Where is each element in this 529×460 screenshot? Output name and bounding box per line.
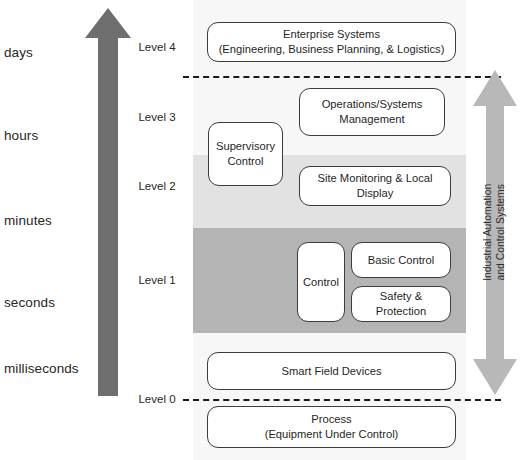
level-label-0: Level 0 [131, 393, 183, 405]
control-box[interactable]: Control [297, 242, 345, 322]
control-label: Control [303, 275, 339, 290]
level-labels: Level 4 Level 3 Level 2 Level 1 Level 0 [131, 0, 183, 460]
level-0-separator [183, 399, 501, 401]
smart-field-devices-label: Smart Field Devices [281, 364, 381, 379]
process-box[interactable]: Process (Equipment Under Control) [207, 406, 456, 448]
site-monitoring-local-display-box[interactable]: Site Monitoring & Local Display [299, 166, 451, 206]
diagram-canvas: days hours minutes seconds milliseconds … [0, 0, 529, 460]
safety-protection-box[interactable]: Safety & Protection [351, 286, 451, 322]
basic-control-box[interactable]: Basic Control [351, 242, 451, 278]
double-headed-vertical-arrow-icon [473, 70, 517, 395]
level-label-1: Level 1 [131, 274, 183, 286]
basic-control-label: Basic Control [368, 253, 435, 268]
supervisory-control-box[interactable]: Supervisory Control [208, 122, 283, 186]
time-label-milliseconds: milliseconds [4, 361, 86, 376]
process-label: Process (Equipment Under Control) [265, 412, 399, 442]
level-4-separator [183, 76, 501, 78]
level-label-4: Level 4 [131, 41, 183, 53]
operations-systems-management-label: Operations/Systems Management [322, 97, 423, 127]
smart-field-devices-box[interactable]: Smart Field Devices [207, 352, 456, 390]
safety-protection-label: Safety & Protection [357, 289, 445, 319]
time-scale-labels: days hours minutes seconds milliseconds [0, 0, 86, 460]
operations-systems-management-box[interactable]: Operations/Systems Management [299, 88, 445, 136]
level-label-3: Level 3 [131, 111, 183, 123]
time-label-seconds: seconds [4, 295, 86, 310]
level-label-2: Level 2 [131, 180, 183, 192]
enterprise-systems-box[interactable]: Enterprise Systems (Engineering, Busines… [207, 22, 456, 62]
time-label-hours: hours [4, 128, 86, 143]
supervisory-control-label: Supervisory Control [216, 139, 275, 169]
hierarchy-panel: Enterprise Systems (Engineering, Busines… [193, 0, 466, 460]
time-label-minutes: minutes [4, 213, 86, 228]
up-arrow-icon [85, 8, 131, 396]
enterprise-systems-label: Enterprise Systems (Engineering, Busines… [219, 27, 445, 57]
time-label-days: days [4, 45, 86, 60]
site-monitoring-local-display-label: Site Monitoring & Local Display [305, 171, 445, 201]
